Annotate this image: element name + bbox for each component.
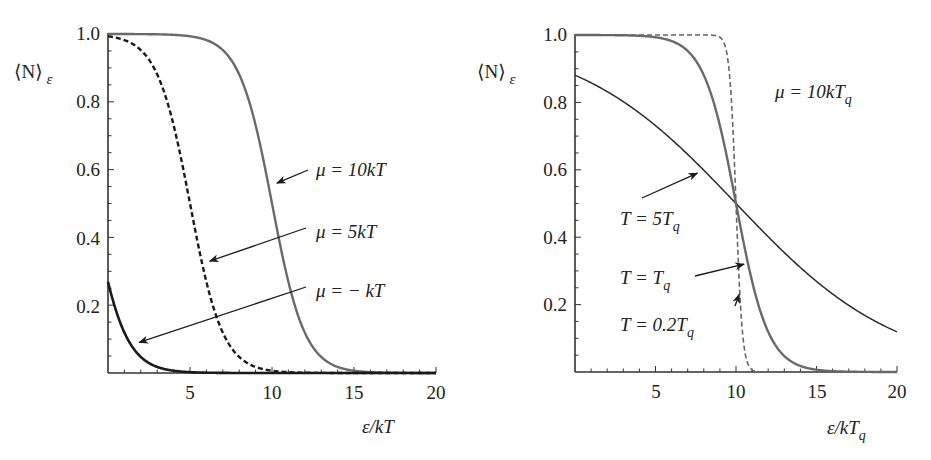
left-ytick-label: 0.4 bbox=[76, 228, 100, 249]
right-xtick-label: 5 bbox=[651, 381, 661, 402]
annotation-arrow bbox=[277, 170, 308, 183]
left-curves bbox=[108, 34, 436, 373]
label-mu-10kTq: μ = 10kTq bbox=[774, 81, 852, 107]
left-xtick-label: 20 bbox=[427, 382, 446, 403]
label-T-5Tq: T = 5Tq bbox=[620, 208, 680, 234]
right-chart: 1.0 0.8 0.6 0.4 0.2 5 10 15 20 ⟨N⟩ε ε/kT… bbox=[477, 24, 907, 443]
left-ytick-label: 1.0 bbox=[76, 23, 100, 44]
label-T-Tq: T = Tq bbox=[620, 267, 670, 293]
right-xtick-label: 20 bbox=[888, 381, 907, 402]
right-xtick-label: 15 bbox=[808, 381, 827, 402]
left-ytick-label: 0.8 bbox=[76, 91, 100, 112]
left-xtick-label: 15 bbox=[345, 382, 364, 403]
annotation-arrow bbox=[139, 287, 306, 342]
annotation-arrow bbox=[642, 173, 697, 198]
right-x-axis-label: ε/kTq bbox=[827, 417, 866, 443]
label-T-0.2Tq: T = 0.2Tq bbox=[620, 314, 694, 340]
left-ytick-label: 0.2 bbox=[76, 296, 100, 317]
label-mu-minus-kT: μ = − kT bbox=[315, 280, 386, 301]
left-ytick-label: 0.6 bbox=[76, 159, 100, 180]
curve--kt bbox=[108, 282, 436, 373]
right-ytick-label: 0.6 bbox=[543, 159, 567, 180]
left-chart: 1.0 0.8 0.6 0.4 0.2 5 10 15 20 ⟨N⟩ε ε/kT… bbox=[14, 23, 446, 437]
right-y-axis-label: ⟨N⟩ε bbox=[477, 61, 516, 87]
fermi-dirac-figure: 1.0 0.8 0.6 0.4 0.2 5 10 15 20 ⟨N⟩ε ε/kT… bbox=[0, 0, 931, 460]
curve--10kt bbox=[108, 34, 436, 373]
right-xtick-label: 10 bbox=[727, 381, 746, 402]
left-y-axis-label: ⟨N⟩ε bbox=[14, 61, 53, 87]
left-x-axis-label: ε/kT bbox=[362, 416, 395, 437]
annotation-arrow bbox=[210, 228, 306, 261]
left-xtick-label: 10 bbox=[263, 382, 282, 403]
annotation-arrow bbox=[695, 264, 744, 276]
left-xtick-label: 5 bbox=[185, 382, 195, 403]
right-ytick-label: 1.0 bbox=[543, 24, 567, 45]
label-mu-10kT: μ = 10kT bbox=[315, 159, 387, 180]
right-ytick-label: 0.2 bbox=[543, 294, 567, 315]
annotation-arrow bbox=[735, 294, 739, 306]
right-ytick-label: 0.8 bbox=[543, 92, 567, 113]
label-mu-5kT: μ = 5kT bbox=[315, 221, 378, 242]
right-ytick-label: 0.4 bbox=[543, 227, 567, 248]
